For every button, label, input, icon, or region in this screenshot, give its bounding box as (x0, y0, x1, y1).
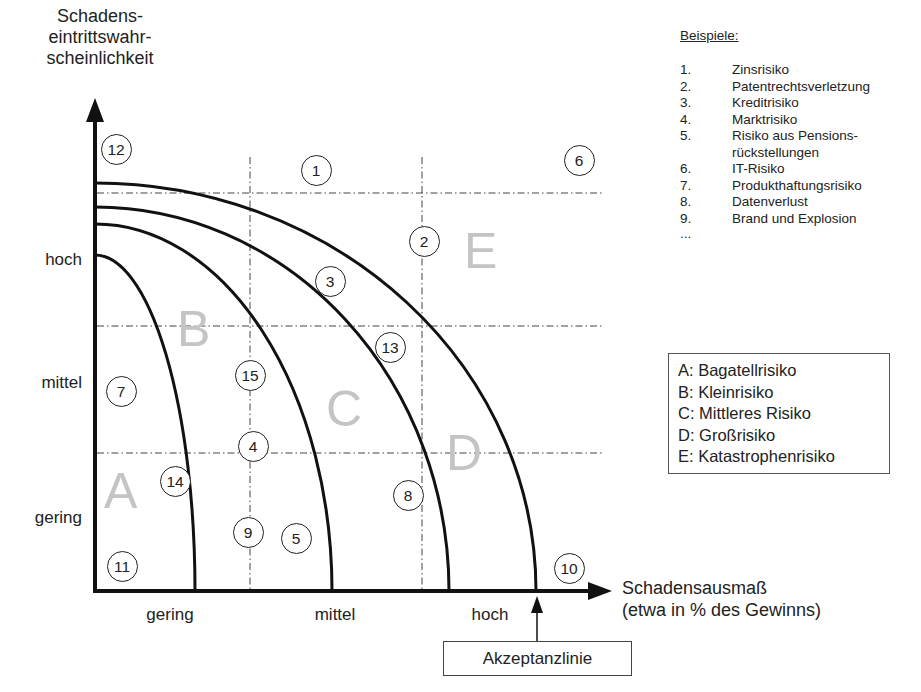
y-axis-arrow-icon (86, 98, 104, 122)
example-label: Brand und Explosion (732, 211, 857, 228)
examples-ellipsis: ... (680, 227, 870, 241)
risk-marker-13: 13 (375, 332, 406, 363)
x-tick-hoch: hoch (440, 605, 540, 625)
example-label: Patentrechtsverletzung (732, 79, 870, 96)
x-axis-title-line: Schadensausmaß (622, 577, 821, 599)
example-item: 4.Marktrisiko (680, 112, 870, 129)
x-tick-mittel: mittel (285, 605, 385, 625)
example-item: rückstellungen (680, 145, 870, 162)
y-axis-title-line: eintrittswahr- (32, 27, 168, 48)
legend-item-c: C: Mittleres Risiko (678, 403, 889, 425)
example-number: 8. (680, 194, 732, 211)
example-item: 9.Brand und Explosion (680, 211, 870, 228)
example-label: Kreditrisiko (732, 95, 799, 112)
example-number: 7. (680, 178, 732, 195)
example-number: 9. (680, 211, 732, 228)
legend-item-b: B: Kleinrisiko (678, 382, 889, 404)
example-number: 3. (680, 95, 732, 112)
risk-marker-11: 11 (107, 551, 138, 582)
risk-marker-8: 8 (393, 480, 424, 511)
example-label: Datenverlust (732, 194, 808, 211)
y-tick-hoch: hoch (2, 250, 82, 270)
example-item: 8.Datenverlust (680, 194, 870, 211)
boundary-C-D-curve (95, 207, 449, 591)
risk-marker-6: 6 (564, 145, 595, 176)
example-label: rückstellungen (732, 145, 819, 162)
example-number: 2. (680, 79, 732, 96)
grid-lines (97, 157, 603, 589)
risk-marker-15: 15 (235, 360, 266, 391)
zone-letter-c: C (326, 384, 362, 434)
acceptance-line-label: Akzeptanzlinie (443, 641, 632, 676)
example-number (680, 145, 732, 162)
example-number: 1. (680, 62, 732, 79)
x-tick-gering: gering (120, 605, 220, 625)
example-label: Risiko aus Pensions- (732, 128, 858, 145)
example-label: Produkthaftungsrisiko (732, 178, 862, 195)
risk-marker-12: 12 (101, 134, 132, 165)
example-item: 7.Produkthaftungsrisiko (680, 178, 870, 195)
y-axis-title-line: Schadens- (32, 6, 168, 27)
x-axis-arrow-icon (588, 582, 612, 600)
example-number: 6. (680, 161, 732, 178)
zone-letter-d: D (446, 428, 482, 478)
example-label: Marktrisiko (732, 112, 797, 129)
legend-item-e: E: Katastrophenrisiko (678, 446, 889, 468)
risk-class-legend: A: Bagatellrisiko B: Kleinrisiko C: Mitt… (668, 353, 890, 474)
legend-item-d: D: Großrisiko (678, 425, 889, 447)
risk-marker-1: 1 (301, 155, 332, 186)
risk-marker-3: 3 (315, 266, 346, 297)
risk-marker-4: 4 (238, 431, 269, 462)
example-item: 1.Zinsrisiko (680, 62, 870, 79)
example-label: Zinsrisiko (732, 62, 789, 79)
zone-letter-b: B (177, 304, 210, 354)
example-item: 3.Kreditrisiko (680, 95, 870, 112)
legend-item-a: A: Bagatellrisiko (678, 360, 889, 382)
y-axis-title-line: scheinlichkeit (32, 48, 168, 69)
risk-marker-7: 7 (106, 376, 137, 407)
y-tick-mittel: mittel (2, 373, 82, 393)
example-number: 5. (680, 128, 732, 145)
example-label: IT-Risiko (732, 161, 785, 178)
risk-marker-14: 14 (160, 466, 191, 497)
examples-list: Beispiele: 1.Zinsrisiko2.Patentrechtsver… (680, 28, 870, 241)
risk-marker-10: 10 (554, 553, 585, 584)
zone-letter-e: E (464, 226, 497, 276)
example-item: 2.Patentrechtsverletzung (680, 79, 870, 96)
example-item: 6.IT-Risiko (680, 161, 870, 178)
example-number: 4. (680, 112, 732, 129)
x-axis-title-line: (etwa in % des Gewinns) (622, 599, 821, 621)
example-item: 5.Risiko aus Pensions- (680, 128, 870, 145)
x-axis-title: Schadensausmaß (etwa in % des Gewinns) (622, 577, 821, 621)
risk-marker-9: 9 (233, 517, 264, 548)
risk-marker-2: 2 (409, 226, 440, 257)
zone-letter-a: A (104, 466, 137, 516)
y-axis-title: Schadens- eintrittswahr- scheinlichkeit (32, 6, 168, 69)
risk-marker-5: 5 (281, 523, 312, 554)
examples-title: Beispiele: (680, 28, 870, 43)
y-tick-gering: gering (2, 508, 82, 528)
